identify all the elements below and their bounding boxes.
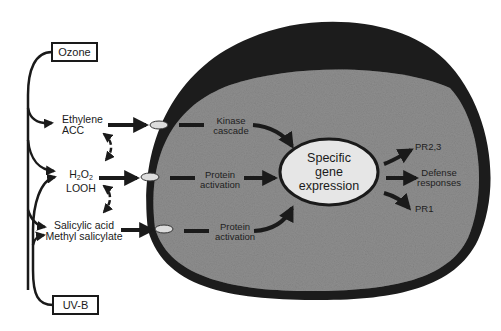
h2o2-salicylic-crosstalk-arrow [104,186,110,212]
uvb-label: UV-B [63,299,89,311]
pr23-label: PR2,3 [415,142,441,152]
ozone-label: Ozone [58,46,90,58]
acc-text: ACC [62,125,103,136]
receptor-icon [141,173,159,181]
expression-text: expression [290,179,368,193]
salicylic-label: Salicylic acid Methyl salicylate [45,220,123,242]
ozone-box: Ozone [51,42,98,62]
receptor-icon [155,225,173,233]
uvb-box: UV-B [52,295,99,315]
ozone-to-salicylic-arrow [28,210,45,227]
activation-text: activation [209,232,261,242]
pr1-label: PR1 [415,204,433,214]
stress-signaling-diagram: Ozone UV-B Ethylene ACC H2O2 LOOH Salicy… [0,0,501,331]
ethylene-label: Ethylene ACC [62,114,103,136]
protein-activation-label-2: Protein activation [209,222,261,242]
defense-responses-label: Defense responses [415,168,463,188]
uvb-to-methyl-arrow [33,235,44,245]
cascade-text: cascade [208,126,254,136]
responses-text: responses [415,178,463,188]
gene-expression-label: Specific gene expression [290,151,368,193]
ozone-to-h2o2-arrow [28,140,54,171]
ethylene-h2o2-crosstalk-arrow [104,134,111,160]
looh-text: LOOH [62,183,100,194]
kinase-cascade-label: Kinase cascade [208,116,254,136]
ozone-to-ethylene-arrow [28,108,52,123]
receptor-icon [150,121,168,129]
gene-text: gene [290,165,368,179]
h2o2-text: H2O2 [62,169,100,183]
activation-text: activation [194,180,246,190]
protein-activation-label-1: Protein activation [194,170,246,190]
h2o2-label: H2O2 LOOH [62,169,100,194]
specific-text: Specific [290,151,368,165]
methyl-salicylate-text: Methyl salicylate [45,231,123,242]
